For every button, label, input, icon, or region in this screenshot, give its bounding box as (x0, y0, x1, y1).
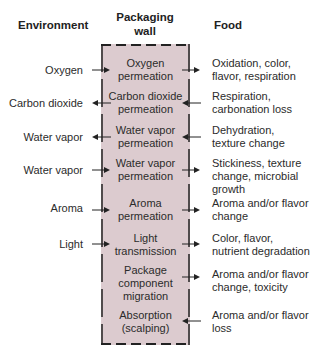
food-effect-dehydration: Dehydration, texture change (212, 124, 285, 150)
arrow-in-left-icon (180, 316, 202, 326)
arrow-out-icon (182, 65, 202, 75)
arrow-out-icon (182, 272, 202, 282)
process-carbon-dioxide-permeation: Carbon dioxide permeation (101, 90, 190, 116)
arrow-in-icon (92, 205, 112, 215)
process-aroma-permeation: Aroma permeation (101, 197, 190, 223)
process-absorption-scalping: Absorption (scalping) (101, 309, 190, 335)
food-effect-color-degradation: Color, flavor, nutrient degradation (212, 232, 310, 258)
env-label-carbon-dioxide: Carbon dioxide (9, 97, 83, 110)
arrow-in-left-icon (180, 98, 202, 108)
arrow-in-icon (92, 65, 112, 75)
food-effect-aroma-change: Aroma and/or flavor change (212, 197, 309, 223)
env-label-oxygen: Oxygen (45, 64, 83, 77)
arrow-out-left-icon (90, 98, 112, 108)
arrow-in-left-icon (180, 132, 202, 142)
header-food: Food (214, 18, 242, 32)
arrow-in-icon (92, 239, 112, 249)
arrow-out-left-icon (90, 132, 112, 142)
arrow-in-icon (92, 165, 112, 175)
food-effect-carbon-dioxide: Respiration, carbonation loss (212, 90, 292, 116)
process-water-vapor-permeation-out: Water vapor permeation (101, 124, 190, 150)
process-water-vapor-permeation-in: Water vapor permeation (101, 157, 190, 183)
arrow-out-icon (182, 205, 202, 215)
env-label-water-vapor-out: Water vapor (23, 131, 83, 144)
food-effect-aroma-loss: Aroma and/or flavor loss (212, 309, 309, 335)
env-label-water-vapor-in: Water vapor (23, 164, 83, 177)
food-effect-oxygen: Oxidation, color, flavor, respiration (212, 57, 296, 83)
arrow-out-icon (182, 239, 202, 249)
process-package-component-migration: Package component migration (101, 264, 190, 303)
process-oxygen-permeation: Oxygen permeation (101, 57, 190, 83)
process-light-transmission: Light transmission (101, 232, 190, 258)
env-label-light: Light (59, 238, 83, 251)
header-environment: Environment (18, 18, 88, 32)
arrow-out-icon (182, 165, 202, 175)
food-effect-toxicity: Aroma and/or flavor change, toxicity (212, 268, 309, 294)
food-effect-stickiness: Stickiness, texture change, microbial gr… (212, 157, 301, 196)
env-label-aroma: Aroma (51, 202, 83, 215)
header-packaging-wall: Packaging wall (112, 10, 178, 38)
